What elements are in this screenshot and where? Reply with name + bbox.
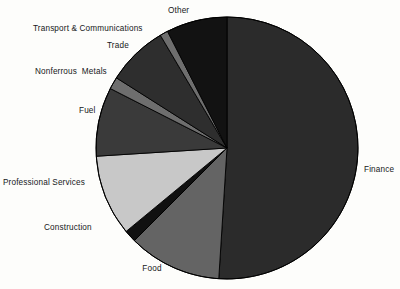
pie-label-professional-services: Professional Services [3,178,85,188]
pie-label-finance: Finance [364,165,394,175]
pie-label-trade: Trade [107,41,129,51]
pie-label-fuel: Fuel [79,106,96,116]
pie-chart-figure: Finance Food Construction Professional S… [0,0,400,289]
pie-slice-group [96,17,358,279]
pie-label-food: Food [130,264,174,274]
pie-chart-canvas [0,0,400,289]
pie-slice-finance[interactable] [219,17,358,279]
pie-label-other: Other [168,6,189,16]
pie-label-nonferrous-metals: Nonferrous Metals [35,67,107,77]
pie-label-construction: Construction [44,223,92,233]
pie-label-transport-communications: Transport & Communications [33,24,143,34]
